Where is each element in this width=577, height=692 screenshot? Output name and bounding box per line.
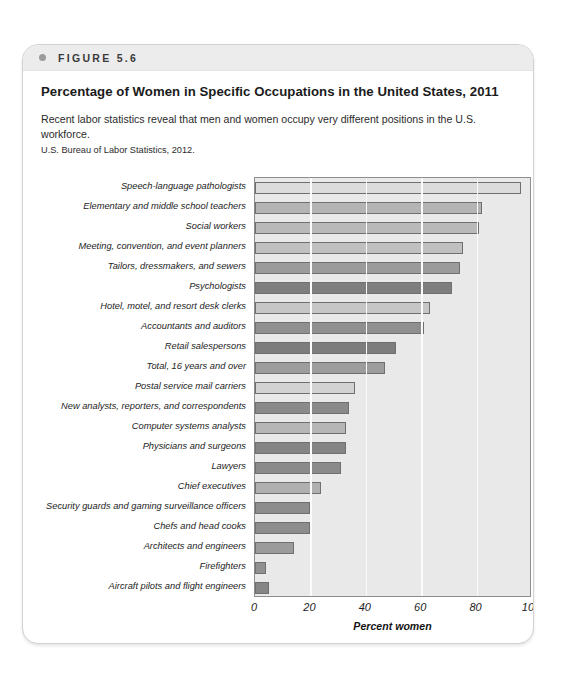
bar-rows: [255, 178, 530, 596]
y-axis-labels: Speech-language pathologistsElementary a…: [23, 177, 251, 597]
bar-row: [255, 262, 530, 274]
bar-row: [255, 282, 530, 294]
bar: [255, 382, 355, 394]
y-axis-label: Aircraft pilots and flight engineers: [109, 582, 246, 591]
bar: [255, 542, 294, 554]
bar-row: [255, 182, 530, 194]
bar-row: [255, 362, 530, 374]
y-axis-label: New analysts, reporters, and corresponde…: [61, 402, 246, 411]
y-axis-label: Computer systems analysts: [132, 422, 246, 431]
bar-chart: Speech-language pathologistsElementary a…: [23, 174, 534, 644]
figure-card: FIGURE 5.6 Percentage of Women in Specif…: [22, 44, 534, 644]
bar-row: [255, 382, 530, 394]
bar: [255, 562, 266, 574]
bar-row: [255, 242, 530, 254]
x-axis-tick-label: 100: [522, 601, 534, 613]
bar: [255, 322, 424, 334]
y-axis-label: Physicians and surgeons: [143, 442, 246, 451]
y-axis-label: Chefs and head cooks: [153, 522, 246, 531]
bar-row: [255, 342, 530, 354]
bar: [255, 582, 269, 594]
y-axis-label: Total, 16 years and over: [147, 362, 246, 371]
x-axis-tick-label: 0: [251, 601, 257, 613]
x-axis-tick-label: 20: [303, 601, 315, 613]
bar-row: [255, 422, 530, 434]
bar-row: [255, 502, 530, 514]
bar: [255, 182, 521, 194]
y-axis-label: Retail salespersons: [165, 342, 246, 351]
bar-row: [255, 522, 530, 534]
x-axis-ticks: 020406080100: [254, 598, 531, 618]
bar-row: [255, 222, 530, 234]
y-axis-label: Hotel, motel, and resort desk clerks: [100, 302, 246, 311]
figure-page: FIGURE 5.6 Percentage of Women in Specif…: [0, 0, 577, 692]
gridline: [421, 178, 422, 596]
y-axis-label: Accountants and auditors: [141, 322, 246, 331]
y-axis-label: Firefighters: [200, 562, 247, 571]
bar: [255, 262, 460, 274]
figure-header: FIGURE 5.6: [23, 45, 533, 71]
bar: [255, 302, 430, 314]
bar-row: [255, 582, 530, 594]
bar: [255, 442, 346, 454]
bar-row: [255, 302, 530, 314]
bar: [255, 502, 310, 514]
bar-row: [255, 202, 530, 214]
y-axis-label: Postal service mail carriers: [135, 382, 246, 391]
y-axis-label: Elementary and middle school teachers: [83, 202, 246, 211]
y-axis-label: Meeting, convention, and event planners: [79, 242, 246, 251]
gridline: [310, 178, 311, 596]
y-axis-label: Speech-language pathologists: [121, 182, 246, 191]
figure-title: Percentage of Women in Specific Occupati…: [41, 84, 515, 101]
bar: [255, 462, 341, 474]
bar-row: [255, 402, 530, 414]
gridline: [366, 178, 367, 596]
bar: [255, 402, 349, 414]
y-axis-label: Social workers: [186, 222, 246, 231]
x-axis-tick-label: 40: [359, 601, 371, 613]
x-axis-tick-label: 60: [414, 601, 426, 613]
bar: [255, 242, 463, 254]
y-axis-label: Lawyers: [211, 462, 246, 471]
bar: [255, 342, 396, 354]
y-axis-label: Tailors, dressmakers, and sewers: [108, 262, 246, 271]
y-axis-label: Security guards and gaming surveillance …: [46, 502, 246, 511]
bar-row: [255, 322, 530, 334]
y-axis-label: Chief executives: [178, 482, 246, 491]
y-axis-label: Architects and engineers: [144, 542, 246, 551]
gridline: [477, 178, 478, 596]
figure-body: Percentage of Women in Specific Occupati…: [23, 71, 533, 643]
bar-row: [255, 462, 530, 474]
plot-area: [254, 177, 531, 597]
bar-row: [255, 542, 530, 554]
bar: [255, 522, 310, 534]
bar-row: [255, 442, 530, 454]
bullet-dot-icon: [39, 54, 46, 61]
bar-row: [255, 482, 530, 494]
x-axis-tick-label: 80: [469, 601, 481, 613]
bar: [255, 422, 346, 434]
figure-number-label: FIGURE 5.6: [58, 52, 138, 64]
x-axis-title: Percent women: [254, 620, 531, 632]
figure-caption: Recent labor statistics reveal that men …: [41, 112, 496, 142]
figure-source: U.S. Bureau of Labor Statistics, 2012.: [41, 144, 515, 157]
y-axis-label: Psychologists: [189, 282, 246, 291]
bar-row: [255, 562, 530, 574]
bar: [255, 202, 482, 214]
